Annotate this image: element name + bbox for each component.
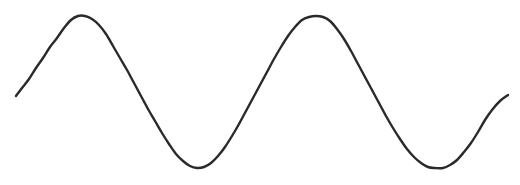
wave-canvas [0,0,520,185]
sine-wave-figure [0,0,520,185]
figure-background [0,0,520,185]
